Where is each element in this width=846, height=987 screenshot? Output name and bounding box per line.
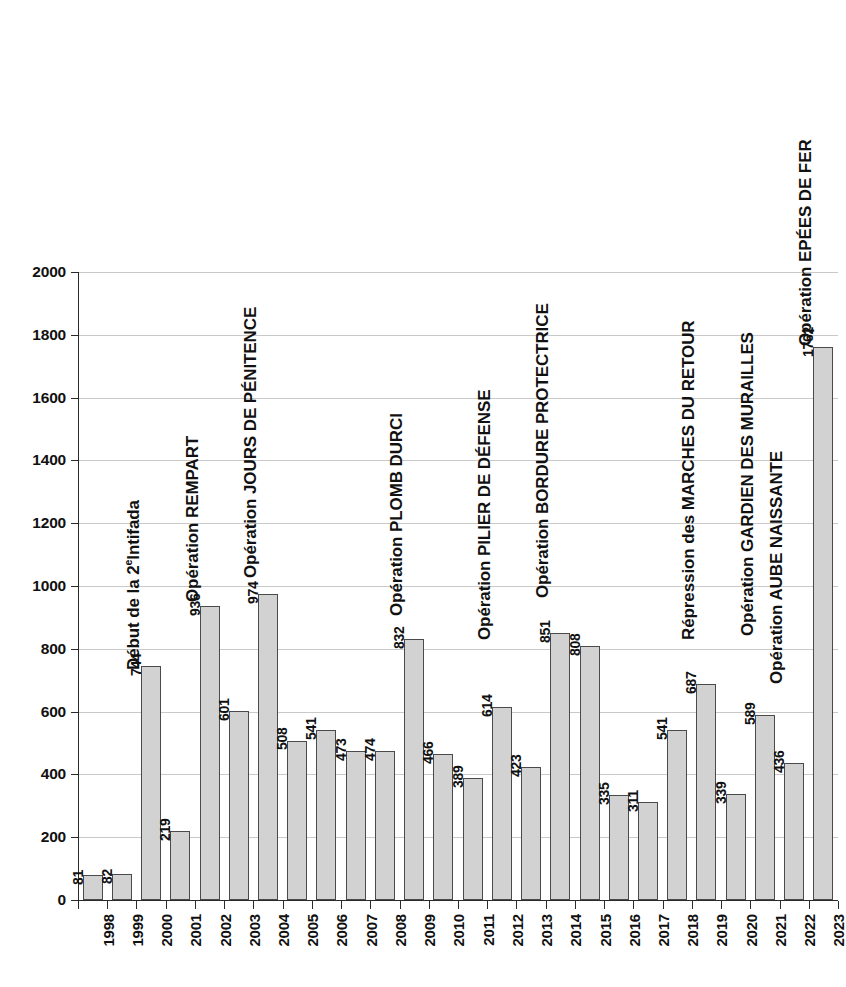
x-axis-tick-label: 2000 [158,914,175,947]
x-tick-mark [780,901,781,909]
bar[interactable] [813,347,833,900]
x-axis-tick-label: 2004 [275,914,292,947]
y-axis-tick-label: 1200 [8,514,66,532]
bar-value-label: 541 [303,718,319,740]
bar[interactable] [141,666,161,900]
bar-value-label: 808 [567,634,583,656]
x-tick-mark [546,901,547,909]
bar[interactable] [463,778,483,900]
x-tick-mark [663,901,664,909]
x-axis-tick-label: 2008 [392,914,409,947]
x-tick-mark [458,901,459,909]
annotation-2012: Opération PILIER DE DÉFENSE [475,390,495,640]
bar[interactable] [580,646,600,900]
x-tick-mark [750,901,751,909]
bar-value-label: 541 [654,718,670,740]
x-tick-mark [516,901,517,909]
y-axis-tick-label: 2000 [8,263,66,281]
bar-slot [809,272,838,900]
bar[interactable] [784,763,804,900]
x-axis-tick-label: 2012 [509,914,526,947]
y-tick-mark-1200 [71,523,78,524]
bar-slot [78,272,107,900]
x-tick-mark [400,901,401,909]
x-axis-tick-label: 2015 [597,914,614,947]
bar-slot [283,272,312,900]
y-axis-tick-label: 1800 [8,326,66,344]
y-axis-tick-label: 0 [8,891,66,909]
x-axis-ticks [78,901,838,910]
x-axis-tick-label: 2020 [743,914,760,947]
x-tick-mark [195,901,196,909]
annotation-2002: Opération REMPART [183,436,203,602]
annotation-superscript: e [122,560,134,566]
bar[interactable] [755,715,775,900]
bar[interactable] [667,730,687,900]
bar-value-label: 508 [274,728,290,750]
x-tick-mark [312,901,313,909]
y-axis-tick-label: 400 [8,765,66,783]
annotation-text: Opération PILIER DE DÉFENSE [475,390,494,640]
x-tick-mark [429,901,430,909]
bar-value-label: 219 [157,819,173,841]
x-tick-mark [809,901,810,909]
x-tick-mark [575,901,576,909]
annotation-text: Opération REMPART [183,436,202,602]
x-axis-tick-label: 2002 [217,914,234,947]
y-axis-tick-label: 800 [8,640,66,658]
bar[interactable] [200,606,220,900]
y-tick-mark-1600 [71,398,78,399]
annotation-text: Début de la 2 [124,565,143,670]
x-tick-mark [253,901,254,909]
bar-value-label: 832 [391,626,407,648]
bar-value-label: 436 [771,751,787,773]
bar-value-label: 589 [742,703,758,725]
x-axis-tick-label: 2007 [363,914,380,947]
bar-value-label: 687 [683,672,699,694]
bar-slot [575,272,604,900]
bar[interactable] [726,794,746,900]
y-tick-mark-1400 [71,460,78,461]
bar[interactable] [346,751,366,900]
bar[interactable] [287,741,307,901]
bar-value-label: 423 [508,755,524,777]
x-axis-tick-label: 2018 [684,914,701,947]
bar[interactable] [521,767,541,900]
bar-value-label: 601 [216,699,232,721]
x-tick-mark [370,901,371,909]
annotation-2004: Opération JOURS DE PÉNITENCE [241,307,261,578]
bar-value-label: 614 [479,695,495,717]
y-axis-tick-label: 1400 [8,451,66,469]
x-axis-tick-label: 2021 [772,914,789,947]
x-axis-tick-label: 2009 [421,914,438,947]
x-axis-tick-label: 2001 [187,914,204,947]
bar[interactable] [404,639,424,900]
y-tick-mark-0 [71,900,78,901]
x-axis-tick-label: 1999 [129,914,146,947]
annotation-text: Opération BORDURE PROTECTRICE [533,303,552,598]
x-tick-mark [721,901,722,909]
x-tick-mark [633,901,634,909]
bar[interactable] [492,707,512,900]
bar-value-label: 851 [537,620,553,642]
bar[interactable] [375,751,395,900]
x-axis-tick-label: 2006 [333,914,350,947]
bar[interactable] [229,711,249,900]
bar-value-label: 311 [625,791,641,813]
bar-value-label: 82 [99,869,115,884]
annotation-text: Opération JOURS DE PÉNITENCE [241,307,260,578]
x-tick-mark [487,901,488,909]
x-tick-mark [107,901,108,909]
bar[interactable] [170,831,190,900]
bar[interactable] [638,802,658,900]
x-axis-tick-label: 2022 [801,914,818,947]
bar-value-label: 389 [450,765,466,787]
annotation-text: Opération GARDIEN DES MURAILLES [738,332,757,636]
annotation-2023: Opération EPÉES DE FER [796,139,816,346]
x-tick-mark [341,901,342,909]
x-tick-mark [283,901,284,909]
y-axis-tick-label: 600 [8,703,66,721]
annotation-text: Opération PLOMB DURCI [387,413,406,616]
bar[interactable] [550,633,570,900]
y-tick-mark-1800 [71,335,78,336]
